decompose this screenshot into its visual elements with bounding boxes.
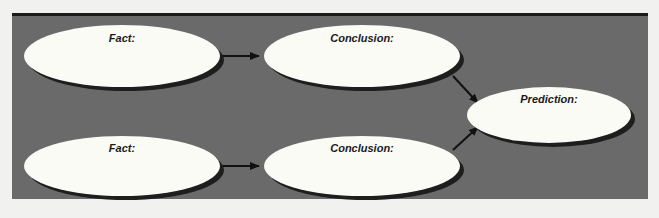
- label-fact2: Fact:: [109, 142, 135, 154]
- label-prediction: Prediction:: [520, 93, 577, 105]
- arrow-conclusion2-to-prediction: [453, 127, 478, 150]
- label-fact1: Fact:: [109, 32, 135, 44]
- arrow-conclusion1-to-prediction: [453, 76, 478, 103]
- label-conclusion1: Conclusion:: [330, 32, 394, 44]
- label-conclusion2: Conclusion:: [330, 142, 394, 154]
